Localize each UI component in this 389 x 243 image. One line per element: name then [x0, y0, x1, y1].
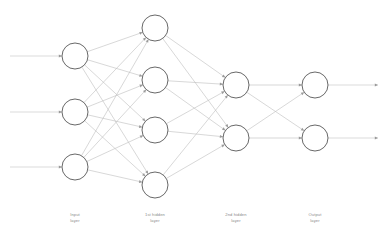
neural-network-diagram: Inputlayer1st hiddenlayer2nd hiddenlayer… — [0, 0, 389, 243]
edge-input-2-to-hidden1-3 — [88, 170, 143, 182]
edges-group — [81, 32, 304, 183]
layer-label-output-line2: layer — [280, 218, 350, 224]
layer-label-hidden2: 2nd hiddenlayer — [201, 212, 271, 223]
layer-label-input-line2: layer — [40, 218, 110, 224]
node-hidden2-1[interactable] — [223, 72, 249, 98]
node-input-1[interactable] — [62, 43, 88, 69]
node-hidden1-3[interactable] — [142, 117, 168, 143]
edge-input-0-to-hidden1-0 — [87, 32, 142, 51]
layer-label-output: Outputlayer — [280, 212, 350, 223]
edge-arrowhead-output-1 — [299, 137, 302, 140]
output-arrowhead-1 — [375, 137, 378, 140]
edge-arrowhead-hidden2-1 — [222, 127, 225, 130]
output-arrowhead-0 — [375, 84, 378, 87]
edge-input-2-to-hidden1-1 — [84, 90, 146, 158]
node-output-1[interactable] — [302, 72, 328, 98]
node-hidden2-2[interactable] — [223, 125, 249, 151]
edge-hidden1-3-to-hidden2-0 — [163, 95, 228, 175]
edge-hidden1-3-to-hidden2-1 — [166, 145, 225, 179]
edge-arrowhead-hidden1-0 — [139, 32, 143, 35]
node-input-3[interactable] — [62, 154, 88, 180]
edge-arrowhead-output-1 — [301, 128, 304, 131]
edge-input-1-to-hidden1-1 — [87, 85, 143, 107]
edge-input-2-to-hidden1-0 — [81, 39, 148, 155]
network-graph-canvas — [0, 0, 389, 243]
edge-input-1-to-hidden1-2 — [88, 115, 143, 127]
edge-input-0-to-hidden1-3 — [82, 67, 148, 174]
input-arrowhead-2 — [59, 166, 62, 169]
layer-label-hidden1: 1st hiddenlayer — [120, 212, 190, 223]
node-hidden1-1[interactable] — [142, 15, 168, 41]
layer-label-hidden1-line2: layer — [120, 218, 190, 224]
nodes-group — [62, 15, 328, 198]
node-input-2[interactable] — [62, 99, 88, 125]
edge-arrowhead-output-0 — [299, 84, 302, 87]
edge-hidden1-0-to-hidden2-0 — [166, 35, 226, 77]
layer-label-input: Inputlayer — [40, 212, 110, 223]
edge-input-2-to-hidden1-2 — [87, 135, 143, 161]
edge-hidden1-2-to-hidden2-0 — [166, 91, 224, 123]
edge-hidden1-2-to-hidden2-1 — [168, 131, 223, 136]
edge-arrowhead-hidden2-0 — [220, 83, 223, 86]
edge-arrowhead-hidden2-0 — [222, 74, 225, 77]
edge-arrowhead-output-0 — [301, 92, 304, 95]
edge-arrowhead-hidden1-3 — [145, 170, 148, 174]
node-output-2[interactable] — [302, 125, 328, 151]
edge-arrowhead-hidden2-1 — [225, 124, 228, 127]
edge-arrowhead-hidden1-3 — [139, 180, 142, 183]
edge-arrowhead-hidden1-2 — [139, 125, 142, 128]
input-arrowhead-1 — [59, 111, 62, 114]
edge-input-0-to-hidden1-2 — [85, 65, 146, 121]
node-hidden1-2[interactable] — [142, 67, 168, 93]
input-arrowhead-0 — [59, 55, 62, 58]
node-hidden1-4[interactable] — [142, 172, 168, 198]
edge-hidden1-0-to-hidden2-1 — [163, 38, 229, 127]
edge-hidden1-1-to-hidden2-0 — [168, 81, 223, 84]
edge-input-0-to-hidden1-1 — [87, 60, 142, 77]
layer-label-hidden2-line2: layer — [201, 218, 271, 224]
